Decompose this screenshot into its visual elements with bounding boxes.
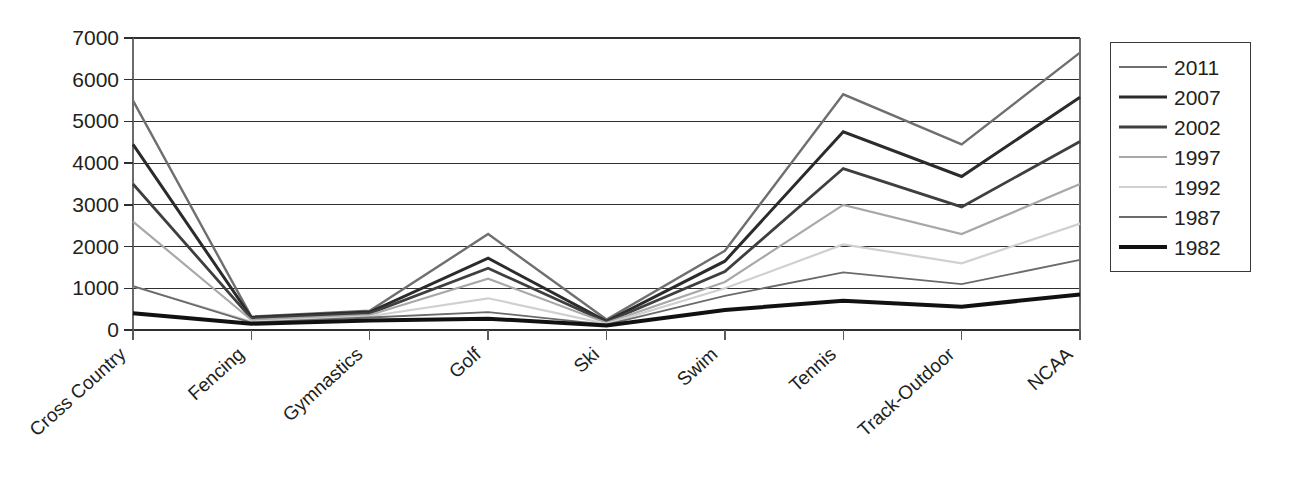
y-axis-tick-label: 2000 bbox=[72, 235, 119, 258]
plot-area: 70006000500040003000200010000 Cross Coun… bbox=[0, 0, 1100, 483]
chart-legend: 2011 2007 2002 1997 1992 1987 1982 bbox=[1110, 42, 1251, 272]
data-series-group bbox=[133, 53, 1080, 326]
legend-item-label: 1997 bbox=[1174, 147, 1221, 168]
legend-item-label: 1982 bbox=[1174, 237, 1221, 258]
legend-line-swatch bbox=[1119, 210, 1167, 224]
x-axis-tick-label: Swim bbox=[673, 343, 722, 390]
legend-item-label: 2002 bbox=[1174, 117, 1221, 138]
x-axis-tick-label: Gymnastics bbox=[279, 343, 367, 425]
y-axis-labels: 70006000500040003000200010000 bbox=[72, 26, 119, 341]
legend-item[interactable]: 2011 bbox=[1119, 52, 1242, 82]
legend-line-swatch bbox=[1119, 240, 1167, 254]
x-axis-labels: Cross CountryFencingGymnasticsGolfSkiSwi… bbox=[25, 343, 1077, 441]
x-axis-tick-label: Tennis bbox=[785, 343, 840, 395]
x-axis-tick-label: Ski bbox=[570, 343, 604, 376]
chart-root: 70006000500040003000200010000 Cross Coun… bbox=[0, 0, 1293, 483]
y-axis-tick-label: 4000 bbox=[72, 151, 119, 174]
gridlines-group bbox=[133, 38, 1080, 330]
y-axis-ticks bbox=[124, 38, 133, 330]
axis-frame bbox=[133, 38, 1080, 330]
y-axis-tick-label: 3000 bbox=[72, 193, 119, 216]
legend-line-swatch bbox=[1119, 60, 1167, 74]
x-axis-tick-label: Cross Country bbox=[25, 343, 130, 440]
x-axis-ticks bbox=[133, 330, 1080, 340]
x-axis-tick-label: Golf bbox=[445, 343, 485, 382]
legend-item-label: 2011 bbox=[1174, 57, 1219, 78]
x-axis-tick-label: Fencing bbox=[184, 343, 248, 404]
legend-item-label: 1992 bbox=[1174, 177, 1221, 198]
series-line-2011 bbox=[133, 53, 1080, 320]
legend-line-swatch bbox=[1119, 120, 1167, 134]
y-axis-tick-label: 7000 bbox=[72, 26, 119, 49]
series-line-2007 bbox=[133, 97, 1080, 321]
legend-line-swatch bbox=[1119, 150, 1167, 164]
legend-item[interactable]: 1997 bbox=[1119, 142, 1242, 172]
y-axis-tick-label: 5000 bbox=[72, 109, 119, 132]
legend-line-swatch bbox=[1119, 90, 1167, 104]
legend-item[interactable]: 1992 bbox=[1119, 172, 1242, 202]
line-chart-svg: 70006000500040003000200010000 Cross Coun… bbox=[0, 0, 1100, 483]
legend-item-label: 2007 bbox=[1174, 87, 1221, 108]
series-line-1992 bbox=[133, 224, 1080, 324]
legend-item[interactable]: 1987 bbox=[1119, 202, 1242, 232]
legend-line-swatch bbox=[1119, 180, 1167, 194]
legend-item[interactable]: 2007 bbox=[1119, 82, 1242, 112]
y-axis-tick-label: 6000 bbox=[72, 68, 119, 91]
y-axis-tick-label: 0 bbox=[107, 318, 119, 341]
x-axis-tick-label: NCAA bbox=[1023, 343, 1077, 394]
legend-item[interactable]: 2002 bbox=[1119, 112, 1242, 142]
x-axis-tick-label: Track-Outdoor bbox=[854, 343, 959, 441]
legend-item[interactable]: 1982 bbox=[1119, 232, 1242, 262]
legend-item-label: 1987 bbox=[1174, 207, 1221, 228]
y-axis-tick-label: 1000 bbox=[72, 276, 119, 299]
